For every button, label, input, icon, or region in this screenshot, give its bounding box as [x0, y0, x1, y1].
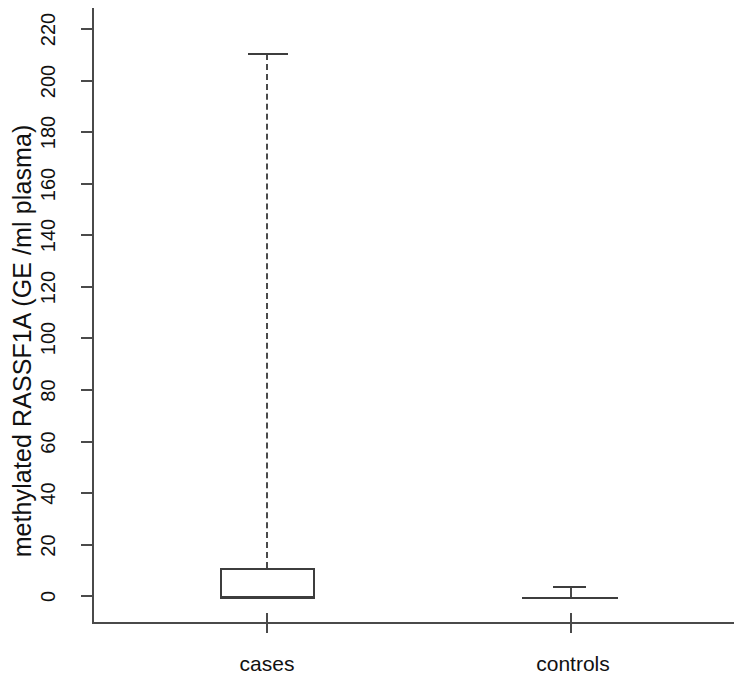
y-tick-160: [81, 183, 92, 185]
x-tick-label-controls: controls: [493, 652, 653, 676]
x-axis-line: [92, 622, 734, 624]
controls-median-line: [522, 597, 618, 599]
controls-upper-whisker-cap: [553, 586, 586, 588]
y-tick-label-40: 40: [37, 464, 60, 524]
y-tick-label-80: 80: [37, 361, 60, 421]
cases-upper-whisker-cap: [248, 53, 288, 55]
y-tick-60: [81, 441, 92, 443]
y-tick-label-100: 100: [37, 309, 60, 369]
y-tick-label-0: 0: [37, 567, 60, 627]
y-tick-20: [81, 544, 92, 546]
cases-median-line: [220, 596, 315, 598]
y-tick-40: [81, 492, 92, 494]
y-tick-label-140: 140: [37, 206, 60, 266]
y-tick-120: [81, 286, 92, 288]
y-axis-line: [92, 8, 94, 623]
y-tick-220: [81, 28, 92, 30]
x-tick-cases: [266, 613, 268, 633]
box-plot-chart: methylated RASSF1A (GE /ml plasma) 220 2…: [0, 0, 734, 682]
y-tick-0: [81, 595, 92, 597]
y-tick-100: [81, 337, 92, 339]
y-tick-label-180: 180: [37, 103, 60, 163]
y-tick-140: [81, 234, 92, 236]
x-tick-controls: [570, 613, 572, 633]
cases-upper-whisker: [266, 54, 268, 568]
y-tick-200: [81, 80, 92, 82]
cases-box: [220, 568, 315, 599]
y-tick-180: [81, 131, 92, 133]
y-tick-80: [81, 389, 92, 391]
x-tick-label-cases: cases: [187, 652, 347, 676]
